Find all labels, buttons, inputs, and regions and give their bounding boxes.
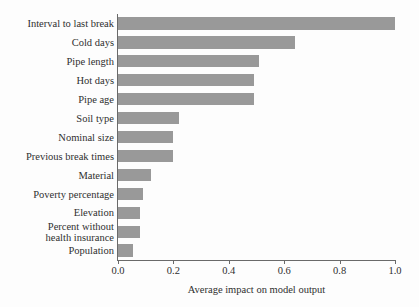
y-axis-tick-label: Pipe age: [5, 95, 117, 106]
bar: [118, 17, 395, 29]
bar: [118, 169, 151, 181]
y-axis-tick-label: Hot days: [5, 76, 117, 87]
bar-row: [118, 71, 395, 90]
x-tick-mark: [118, 261, 119, 264]
bar-row: [118, 14, 395, 33]
bar-row: [118, 109, 395, 128]
bar: [118, 112, 179, 124]
y-axis-tick-label: Interval to last break: [5, 19, 117, 30]
x-axis-ticks: 0.00.20.40.60.81.0: [118, 261, 395, 281]
plot-area: [118, 14, 395, 260]
bar-row: [118, 222, 395, 241]
y-axis-label-column: Interval to last breakCold daysPipe leng…: [0, 14, 117, 260]
bar-row: [118, 241, 395, 260]
bar: [118, 74, 254, 86]
y-axis-tick-label: Elevation: [5, 208, 117, 219]
y-axis-tick-label: Nominal size: [5, 133, 117, 144]
x-tick-label: 0.6: [278, 265, 291, 276]
y-axis-tick-label: Soil type: [5, 114, 117, 125]
y-axis-tick-label: Poverty percentage: [5, 190, 117, 201]
x-tick-mark: [340, 261, 341, 264]
x-tick-label: 0.0: [111, 265, 124, 276]
bar: [118, 93, 254, 105]
bar: [118, 36, 295, 48]
bar-row: [118, 203, 395, 222]
x-axis-title: Average impact on model output: [118, 284, 395, 296]
x-tick-mark: [284, 261, 285, 264]
bar-row: [118, 128, 395, 147]
bar: [118, 188, 143, 200]
y-axis-tick-label: Cold days: [5, 38, 117, 49]
bar: [118, 150, 173, 162]
bar-chart-figure: Interval to last breakCold daysPipe leng…: [0, 0, 419, 307]
x-tick-label: 0.4: [222, 265, 235, 276]
y-axis-tick-label: Material: [5, 171, 117, 182]
bar-row: [118, 90, 395, 109]
x-tick-label: 0.8: [333, 265, 346, 276]
x-tick-mark: [173, 261, 174, 264]
bar-row: [118, 33, 395, 52]
y-axis-tick-label: Pipe length: [5, 57, 117, 68]
bar-row: [118, 52, 395, 71]
bar: [118, 131, 173, 143]
bar: [118, 244, 133, 256]
bar-row: [118, 146, 395, 165]
y-axis-tick-label: Population: [5, 246, 117, 257]
x-tick-label: 1.0: [388, 265, 401, 276]
bar-row: [118, 165, 395, 184]
bar-row: [118, 184, 395, 203]
bar: [118, 226, 140, 238]
x-tick-mark: [395, 261, 396, 264]
bar: [118, 207, 140, 219]
x-tick-label: 0.2: [167, 265, 180, 276]
x-tick-mark: [229, 261, 230, 264]
y-axis-tick-label: Previous break times: [5, 152, 117, 163]
y-axis-tick-label: Percent without health insurance: [5, 222, 117, 243]
bar: [118, 55, 259, 67]
